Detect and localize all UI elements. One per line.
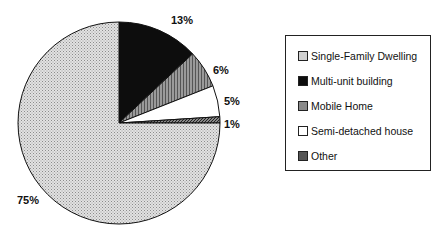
swatch-hatched-icon — [298, 151, 308, 161]
legend-label: Single-Family Dwelling — [311, 50, 417, 62]
swatch-white-icon — [298, 126, 308, 136]
legend-label: Multi-unit building — [311, 75, 393, 87]
swatch-gray-striped-icon — [298, 101, 308, 111]
swatch-dotted-icon — [298, 51, 308, 61]
legend: Single-Family Dwelling Multi-unit buildi… — [285, 35, 431, 171]
legend-item-other: Other — [298, 143, 430, 168]
slice-label-semi-detached: 5% — [224, 95, 240, 107]
legend-item-multi-unit: Multi-unit building — [298, 68, 430, 93]
slice-label-other: 1% — [224, 118, 240, 130]
slice-label-single-family: 75% — [17, 194, 39, 206]
legend-item-mobile-home: Mobile Home — [298, 93, 430, 118]
slice-label-multi-unit: 13% — [171, 14, 193, 26]
legend-item-single-family: Single-Family Dwelling — [298, 43, 430, 68]
slice-label-mobile-home: 6% — [213, 64, 229, 76]
legend-label: Other — [311, 150, 337, 162]
legend-label: Semi-detached house — [311, 125, 413, 137]
swatch-black-icon — [298, 76, 308, 86]
legend-label: Mobile Home — [311, 100, 373, 112]
legend-item-semi-detached: Semi-detached house — [298, 118, 430, 143]
